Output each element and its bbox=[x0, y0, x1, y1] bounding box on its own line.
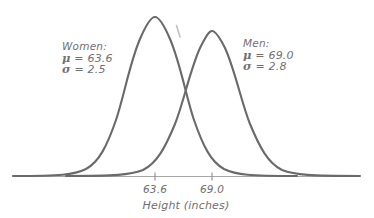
stray-pen-mark-icon bbox=[177, 26, 181, 38]
women-sigma-value: = 2.5 bbox=[74, 63, 105, 76]
men-sigma-stat: σ = 2.8 bbox=[243, 61, 294, 73]
sigma-symbol: σ bbox=[243, 59, 252, 73]
men-annotation: Men: μ = 69.0 σ = 2.8 bbox=[243, 38, 294, 73]
chart-canvas bbox=[0, 0, 374, 218]
x-tick-label-women: 63.6 bbox=[143, 183, 167, 195]
women-annotation: Women: μ = 63.6 σ = 2.5 bbox=[62, 41, 113, 76]
women-sigma-stat: σ = 2.5 bbox=[62, 64, 113, 76]
men-sigma-value: = 2.8 bbox=[255, 60, 286, 73]
normal-distribution-chart: Women: μ = 63.6 σ = 2.5 Men: μ = 69.0 σ … bbox=[0, 0, 374, 218]
sigma-symbol: σ bbox=[62, 62, 71, 76]
x-axis-title: Height (inches) bbox=[143, 199, 230, 212]
x-tick-label-men: 69.0 bbox=[200, 183, 224, 195]
